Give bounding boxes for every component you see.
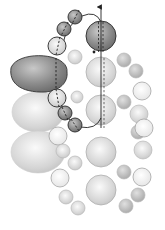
small-sphere [68,156,82,170]
chain-lower-3 [68,118,82,132]
diagram-canvas [0,0,165,230]
chain-lower-1 [48,89,66,107]
axis-column-sphere [86,137,116,167]
small-sphere [131,188,145,202]
small-sphere [119,199,133,213]
small-sphere [135,119,153,137]
axis-point [93,51,96,54]
small-sphere [59,190,73,204]
small-sphere [133,168,151,186]
helix-diagram [0,0,165,230]
small-sphere [134,141,152,159]
chain-upper-3 [48,37,66,55]
small-sphere [51,169,69,187]
small-sphere [71,91,83,103]
small-sphere [117,53,131,67]
large-lobe [11,56,67,92]
small-sphere [68,50,82,64]
small-sphere [56,144,70,158]
axis-column-sphere [86,175,116,205]
chain-lower-2 [58,106,72,120]
small-sphere [117,95,131,109]
small-sphere [129,64,143,78]
small-sphere [117,165,131,179]
small-sphere [71,201,85,215]
small-sphere [49,127,67,145]
large-lobe-layer [11,56,67,92]
small-sphere [133,82,151,100]
